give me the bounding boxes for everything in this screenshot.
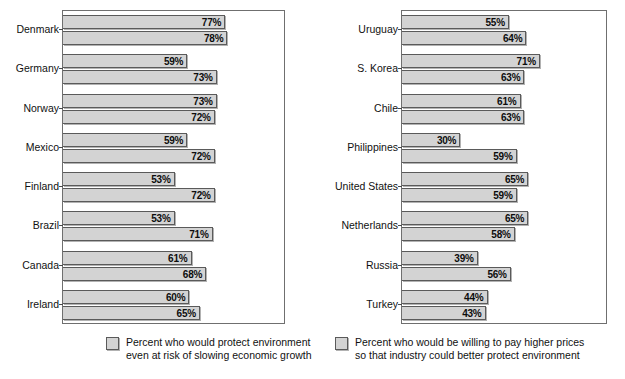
bar-row: 44% <box>402 290 488 304</box>
bar: 59% <box>402 188 517 202</box>
axis-tick <box>398 68 402 69</box>
bar: 58% <box>402 227 515 241</box>
bar: 65% <box>402 172 528 186</box>
category-label: Brazil <box>33 219 59 231</box>
bar-value-label: 72% <box>191 111 210 122</box>
legend-swatch-icon <box>335 337 348 350</box>
bar: 44% <box>402 290 488 304</box>
axis-tick <box>398 147 402 148</box>
bar-row: 72% <box>63 188 215 202</box>
bar-group: Brazil53%71% <box>63 207 284 246</box>
bar-rows-right: Uruguay55%64%S. Korea71%63%Chile61%63%Ph… <box>402 11 606 323</box>
category-label: Germany <box>16 62 59 74</box>
legend-swatch-icon <box>106 337 119 350</box>
bar: 53% <box>63 211 175 225</box>
legend-label-line2: even at risk of slowing economic growth <box>126 349 312 362</box>
plot-area-right: Uruguay55%64%S. Korea71%63%Chile61%63%Ph… <box>401 10 607 324</box>
bar-group: Denmark77%78% <box>63 11 284 50</box>
bar-row: 59% <box>63 54 187 68</box>
legend-label-line1: Percent who would be willing to pay high… <box>355 336 584 349</box>
category-label: United States <box>335 180 398 192</box>
bar-row: 60% <box>63 290 189 304</box>
bar-value-label: 63% <box>501 72 520 83</box>
bar-value-label: 73% <box>193 95 212 106</box>
axis-tick <box>398 108 402 109</box>
legend-label: Percent who would be willing to pay high… <box>355 336 584 361</box>
legend-label-line1: Percent who would protect environment <box>126 336 312 349</box>
chart-panel-right: Uruguay55%64%S. Korea71%63%Chile61%63%Ph… <box>312 0 625 330</box>
bar-row: 58% <box>402 227 515 241</box>
bar-row: 72% <box>63 110 215 124</box>
axis-tick <box>59 186 63 187</box>
bar: 60% <box>63 290 189 304</box>
axis-tick <box>398 186 402 187</box>
category-label: Mexico <box>26 141 59 153</box>
bar-row: 65% <box>402 172 528 186</box>
bar-group: Netherlands65%58% <box>402 207 606 246</box>
bar-group: Mexico59%72% <box>63 129 284 168</box>
bar-value-label: 53% <box>151 174 170 185</box>
bar-group: Norway73%72% <box>63 90 284 129</box>
bar-value-label: 71% <box>189 229 208 240</box>
bar-row: 72% <box>63 149 215 163</box>
bar-value-label: 59% <box>164 56 183 67</box>
axis-tick <box>398 29 402 30</box>
legend-item-pay-higher-prices: Percent who would be willing to pay high… <box>335 336 584 376</box>
bar-value-label: 56% <box>487 268 506 279</box>
bar-group: Finland53%72% <box>63 168 284 207</box>
legend-label: Percent who would protect environment ev… <box>126 336 312 361</box>
bar-group: Ireland60%65% <box>63 286 284 325</box>
bar: 63% <box>402 110 524 124</box>
bar: 30% <box>402 133 460 147</box>
chart-panel-left: Denmark77%78%Germany59%73%Norway73%72%Me… <box>0 0 313 330</box>
bar: 59% <box>63 54 187 68</box>
axis-tick <box>59 108 63 109</box>
category-label: S. Korea <box>357 62 398 74</box>
bar: 56% <box>402 267 511 281</box>
bar-value-label: 78% <box>204 33 223 44</box>
category-label: Denmark <box>16 23 59 35</box>
bar: 68% <box>63 267 206 281</box>
bar: 59% <box>402 149 517 163</box>
bar-row: 64% <box>402 31 526 45</box>
bar-group: Russia39%56% <box>402 247 606 286</box>
bar-row: 56% <box>402 267 511 281</box>
bar-row: 77% <box>63 15 225 29</box>
category-label: Turkey <box>366 298 398 310</box>
category-label: Netherlands <box>341 219 398 231</box>
bar-group: Turkey44%43% <box>402 286 606 325</box>
bar-row: 61% <box>402 94 521 108</box>
bar-value-label: 63% <box>501 111 520 122</box>
axis-tick <box>59 29 63 30</box>
bar: 43% <box>402 306 486 320</box>
bar-value-label: 71% <box>517 56 536 67</box>
bar: 65% <box>402 211 528 225</box>
bar-group: United States65%59% <box>402 168 606 207</box>
bar-value-label: 59% <box>164 134 183 145</box>
bar: 53% <box>63 172 175 186</box>
bar-row: 30% <box>402 133 460 147</box>
bar: 61% <box>63 251 192 265</box>
bar: 78% <box>63 31 227 45</box>
axis-tick <box>59 225 63 226</box>
category-label: Philippines <box>347 141 398 153</box>
bar-value-label: 59% <box>493 190 512 201</box>
bar-value-label: 77% <box>202 17 221 28</box>
bar-value-label: 72% <box>191 190 210 201</box>
bar-row: 59% <box>63 133 187 147</box>
bar-row: 73% <box>63 70 217 84</box>
bar: 71% <box>402 54 540 68</box>
axis-tick <box>398 225 402 226</box>
bar: 63% <box>402 70 524 84</box>
bar-row: 71% <box>63 227 213 241</box>
category-label: Uruguay <box>358 23 398 35</box>
bar-row: 63% <box>402 110 524 124</box>
bar: 64% <box>402 31 526 45</box>
category-label: Norway <box>23 102 59 114</box>
bar-row: 39% <box>402 251 478 265</box>
bar-row: 59% <box>402 149 517 163</box>
bar: 55% <box>402 15 509 29</box>
bar-value-label: 58% <box>491 229 510 240</box>
bar: 59% <box>63 133 187 147</box>
bar: 61% <box>402 94 521 108</box>
